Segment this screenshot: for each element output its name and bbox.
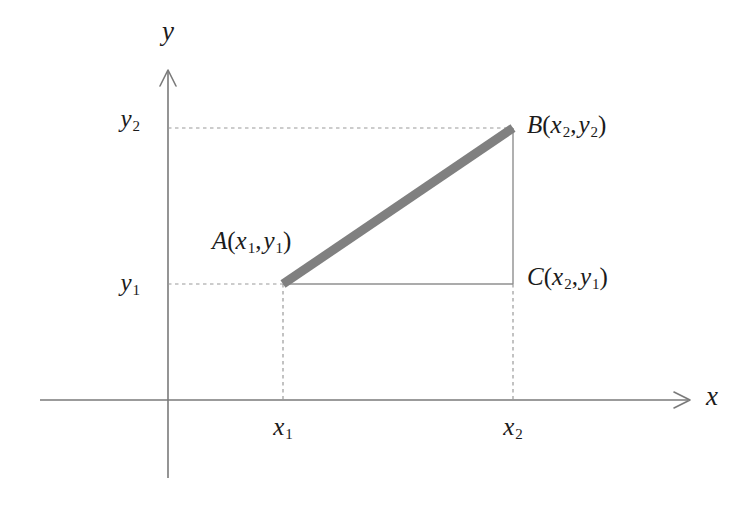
y2-subscript: 2	[132, 118, 141, 134]
y-tick-label-y2: y2	[120, 106, 140, 134]
point-c-close-paren: )	[599, 263, 607, 290]
point-a-x-subscript: 1	[247, 240, 256, 256]
point-c-x-base: x	[552, 263, 563, 290]
segment-ab-hypotenuse	[283, 128, 513, 284]
point-a-y-subscript: 1	[275, 240, 284, 256]
point-b-close-paren: )	[598, 111, 606, 138]
projection-guides	[168, 128, 513, 400]
figure-canvas	[0, 0, 743, 514]
y2-base: y	[120, 105, 131, 132]
point-label-b: B(x2,y2)	[527, 112, 606, 140]
point-a-close-paren: )	[283, 227, 291, 254]
point-a-y-base: y	[263, 227, 274, 254]
point-b-x-base: x	[551, 111, 562, 138]
x-axis-label: x	[706, 383, 718, 410]
x2-base: x	[503, 413, 514, 440]
point-a-open-paren: (	[227, 227, 235, 254]
y1-base: y	[120, 269, 131, 296]
x-tick-label-x2: x2	[503, 414, 523, 442]
x1-subscript: 1	[284, 426, 293, 442]
point-a-name: A	[212, 227, 227, 254]
point-a-x-base: x	[236, 227, 247, 254]
point-b-x-subscript: 2	[562, 124, 571, 140]
point-c-open-paren: (	[544, 263, 552, 290]
point-c-comma: ,	[572, 263, 580, 290]
point-b-name: B	[527, 111, 542, 138]
x2-subscript: 2	[514, 426, 523, 442]
y-axis	[160, 70, 176, 478]
x-axis	[40, 392, 690, 408]
point-c-name: C	[527, 263, 544, 290]
point-b-open-paren: (	[542, 111, 550, 138]
point-label-a: A(x1,y1)	[212, 228, 291, 256]
y-axis-label: y	[162, 18, 174, 45]
y-tick-label-y1: y1	[120, 270, 140, 298]
coordinate-diagram: y x y2 y1 x1 x2 A(x1,y1) B(x2,y2) C(x2,y…	[0, 0, 743, 514]
x1-base: x	[273, 413, 284, 440]
point-c-x-subscript: 2	[563, 276, 572, 292]
point-b-y-subscript: 2	[590, 124, 599, 140]
point-b-y-base: y	[578, 111, 589, 138]
point-c-y-base: y	[580, 263, 591, 290]
point-label-c: C(x2,y1)	[527, 264, 608, 292]
y1-subscript: 1	[132, 282, 141, 298]
x-tick-label-x1: x1	[273, 414, 293, 442]
